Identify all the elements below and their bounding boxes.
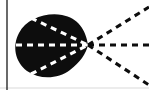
figure-container: Cardioid caustic with converging and div… [0, 0, 149, 90]
caustic-ray-diagram-svg [0, 0, 149, 90]
